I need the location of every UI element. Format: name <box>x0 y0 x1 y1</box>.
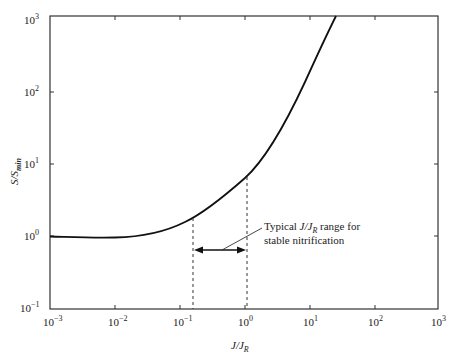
svg-text:10−1: 10−1 <box>20 300 40 314</box>
svg-text:101: 101 <box>24 156 39 170</box>
svg-text:10−3: 10−3 <box>43 314 63 328</box>
svg-text:Typical J/JR range for: Typical J/JR range for <box>264 220 360 235</box>
svg-text:10−2: 10−2 <box>108 314 128 328</box>
x-tick-labels: 10−3 10−2 10−1 100 101 102 103 <box>43 314 446 328</box>
chart-canvas: 10−3 10−2 10−1 100 101 102 103 103 102 1… <box>0 0 459 357</box>
annotation-leader-line <box>222 228 262 250</box>
y-ticks <box>50 92 438 236</box>
svg-text:100: 100 <box>238 314 253 328</box>
x-axis-label: J/JR <box>231 339 249 354</box>
svg-text:103: 103 <box>431 314 446 328</box>
svg-text:100: 100 <box>24 228 39 242</box>
data-curve <box>50 16 336 238</box>
svg-text:102: 102 <box>368 314 383 328</box>
plot-frame <box>50 16 438 309</box>
y-axis-label: S/Smin <box>8 157 23 185</box>
svg-text:101: 101 <box>303 314 318 328</box>
x-ticks <box>115 16 375 309</box>
svg-text:102: 102 <box>24 84 39 98</box>
svg-text:103: 103 <box>24 12 39 26</box>
svg-text:stable nitrification: stable nitrification <box>264 234 345 246</box>
svg-text:10−1: 10−1 <box>173 314 193 328</box>
annotation-text: Typical J/JR range for stable nitrificat… <box>264 220 360 246</box>
range-double-arrow <box>194 247 246 254</box>
